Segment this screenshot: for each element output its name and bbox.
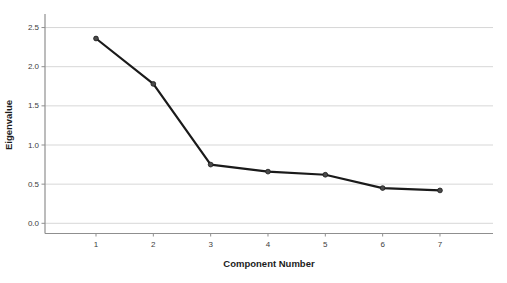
data-point-marker (266, 169, 271, 174)
gridlines (45, 28, 493, 224)
y-tick-label: 2.5 (28, 23, 40, 32)
x-tick-label: 4 (266, 240, 271, 249)
data-point-marker (380, 186, 385, 191)
eigenvalue-line (96, 39, 440, 191)
x-tick-label: 3 (208, 240, 213, 249)
x-tick-label: 1 (94, 240, 99, 249)
scree-plot-canvas: 0.00.51.01.52.02.51234567 Eigenvalue Com… (0, 0, 507, 283)
y-tick-label: 1.5 (28, 101, 40, 110)
x-tick-label: 6 (380, 240, 385, 249)
x-tick-label: 2 (151, 240, 156, 249)
data-point-marker (438, 188, 443, 193)
scree-plot-figure: 0.00.51.01.52.02.51234567 Eigenvalue Com… (0, 0, 507, 283)
data-point-marker (94, 36, 99, 41)
data-point-marker (323, 172, 328, 177)
y-tick-label: 0.5 (28, 180, 40, 189)
y-axis-title: Eigenvalue (3, 100, 14, 150)
y-tick-label: 1.0 (28, 141, 40, 150)
x-tick-label: 5 (323, 240, 328, 249)
data-point-marker (208, 162, 213, 167)
axes: 0.00.51.01.52.02.51234567 (28, 14, 493, 249)
eigenvalue-series (94, 36, 443, 193)
data-point-marker (151, 82, 156, 87)
y-tick-label: 0.0 (28, 219, 40, 228)
x-tick-label: 7 (438, 240, 443, 249)
y-tick-label: 2.0 (28, 62, 40, 71)
x-axis-title: Component Number (223, 258, 315, 269)
